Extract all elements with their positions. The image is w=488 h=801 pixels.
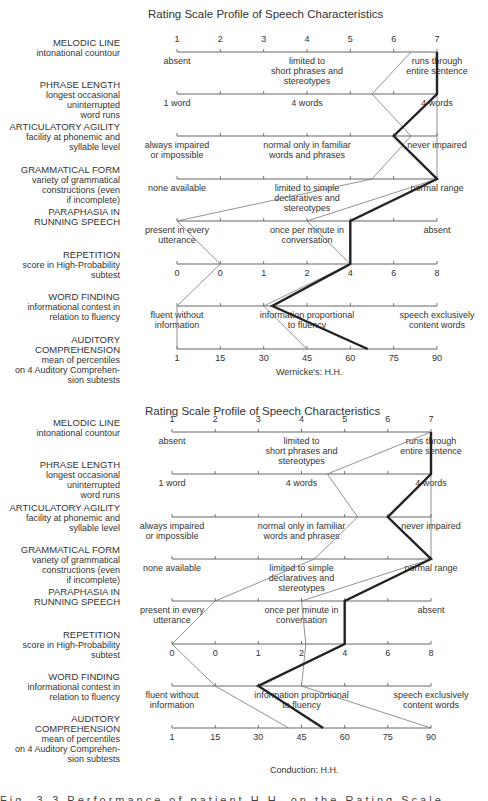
plot-area — [0, 0, 488, 801]
profile-thin-b-line — [302, 432, 432, 728]
rating-scale-chart-2: Rating Scale Profile of Speech Character… — [0, 0, 488, 801]
chart-caption: Conduction: H.H. — [270, 765, 339, 775]
figure-caption-cutoff: Fig. 3-3 Performance of patient H.H. on … — [0, 792, 488, 801]
